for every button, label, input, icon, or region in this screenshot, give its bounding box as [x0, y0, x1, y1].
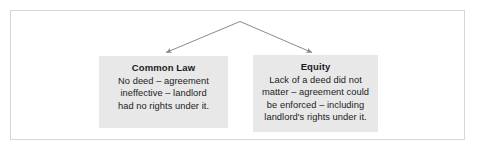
body-line: be enforced – including [257, 99, 374, 112]
body-line: Lack of a deed did not [257, 74, 374, 87]
concept-box-equity-title: Equity [257, 61, 374, 74]
body-line: matter – agreement could [257, 86, 374, 99]
concept-box-common-law-body: No deed – agreement ineffective – landlo… [103, 75, 224, 113]
concept-box-equity-body: Lack of a deed did not matter – agreemen… [257, 74, 374, 124]
concept-box-common-law-title: Common Law [103, 62, 224, 75]
body-line: No deed – agreement [103, 75, 224, 88]
body-line: had no rights under it. [103, 100, 224, 113]
body-line: landlord's rights under it. [257, 111, 374, 124]
body-line: ineffective – landlord [103, 87, 224, 100]
diagram-canvas: Common Law No deed – agreement ineffecti… [0, 0, 484, 151]
diagram-frame-border [10, 10, 465, 140]
concept-box-equity: Equity Lack of a deed did not matter – a… [253, 55, 378, 132]
concept-box-common-law: Common Law No deed – agreement ineffecti… [99, 56, 228, 128]
